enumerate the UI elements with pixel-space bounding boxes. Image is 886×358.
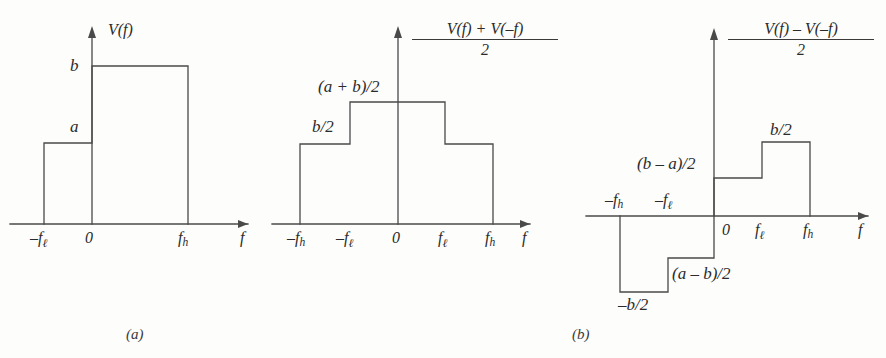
panel-c-title: V(f) – V(–f) 2	[728, 20, 874, 60]
panel-c-title-denominator: 2	[728, 41, 874, 59]
figure-container: V(f) b a –fℓ 0 fh f V(f) + V(–f) 2 (a + …	[0, 0, 886, 358]
panel-c-tick-fh: fh	[803, 222, 813, 241]
panel-c-axis-label-f: f	[858, 222, 862, 238]
caption-b: (b)	[572, 326, 590, 343]
panel-c-title-fraction-bar	[728, 39, 874, 40]
panel-c-x-axis-arrow	[858, 212, 868, 220]
panel-c-amp-neg-inner-label: (a – b)/2	[672, 265, 731, 282]
panel-c-amp-neg-outer-label: –b/2	[618, 296, 648, 313]
panel-c-title-numerator: V(f) – V(–f)	[728, 20, 874, 38]
panel-c-tick-zero: 0	[722, 222, 730, 238]
panel-c-amp-pos-outer-label: b/2	[770, 121, 792, 138]
panel-c-tick-neg-fh: –fh	[605, 192, 623, 211]
panel-c-y-axis-arrow	[710, 28, 718, 40]
panel-c-tick-neg-fl: –fℓ	[655, 192, 672, 211]
panel-c-amp-pos-inner-label: (b – a)/2	[637, 155, 696, 172]
caption-a: (a)	[126, 326, 144, 343]
panel-c-tick-fl: fℓ	[755, 222, 764, 241]
